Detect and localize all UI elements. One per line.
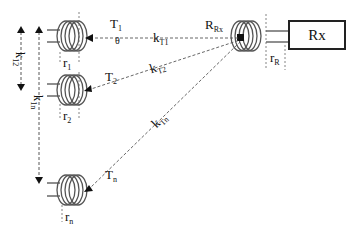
t2-label: T2 bbox=[105, 70, 117, 86]
coupling-diagram: T1 θ T2 Tn r1 r2 rn RRx rR Rx kT1 kT2 kT… bbox=[0, 0, 351, 234]
r2-label: r2 bbox=[63, 109, 71, 125]
receiver-box: Rx bbox=[288, 20, 346, 50]
rrx-label: RRx bbox=[205, 18, 223, 34]
k12-label: k12 bbox=[11, 52, 27, 67]
kt1-label: kT1 bbox=[153, 31, 168, 47]
rr-label: rR bbox=[270, 51, 280, 67]
rn-label: rn bbox=[65, 210, 73, 226]
k1n-label: k1n bbox=[29, 95, 45, 110]
t1-label: T1 bbox=[110, 17, 122, 33]
theta-label: θ bbox=[115, 36, 120, 46]
tn-label: Tn bbox=[105, 168, 117, 184]
r1-label: r1 bbox=[63, 56, 71, 72]
